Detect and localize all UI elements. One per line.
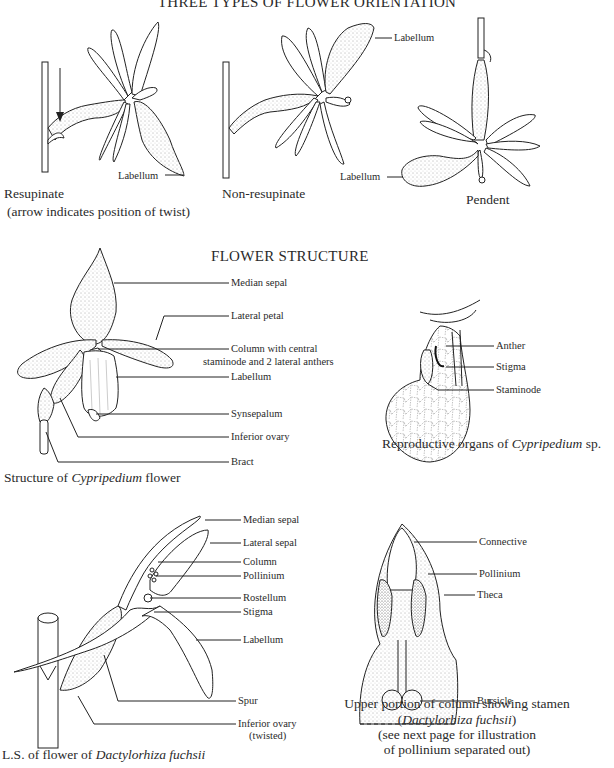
non-resupinate-caption: Non-resupinate (222, 187, 305, 201)
caption-text: Structure of (4, 470, 71, 485)
stamen-drawing (360, 524, 458, 724)
stamen-label-pollinium: Pollinium (479, 569, 520, 580)
stamen-caption-line4: of pollinium separated out) (340, 743, 574, 757)
resupinate-subcaption: (arrow indicates position of twist) (7, 205, 190, 219)
resupinate-caption: Resupinate (4, 187, 64, 201)
ls-label-inferior-ovary: Inferior ovary (238, 719, 297, 730)
label-column-line1: Column with central (231, 344, 317, 355)
cypripedium-flower-drawing (18, 248, 173, 454)
dactylorhiza-caption: L.S. of flower of Dactylorhiza fuchsii (2, 748, 205, 762)
label-labellum: Labellum (231, 372, 271, 383)
label-median-sepal: Median sepal (231, 278, 287, 289)
label-anther: Anther (496, 341, 525, 352)
cypripedium-caption: Structure of Cypripedium flower (4, 471, 181, 485)
ls-label-median-sepal: Median sepal (243, 515, 299, 526)
label-synsepalum: Synsepalum (231, 409, 282, 420)
caption-text: L.S. of flower of (2, 747, 96, 762)
ls-label-rostellum: Rostellum (243, 593, 286, 604)
pendent-labellum-label: Labellum (340, 172, 380, 183)
ls-label-labellum: Labellum (243, 635, 283, 646)
label-bract: Bract (231, 457, 254, 468)
ls-label-spur: Spur (238, 696, 258, 707)
label-column-line2: staminode and 2 lateral anthers (203, 357, 334, 368)
ls-label-column: Column (243, 557, 277, 568)
section-title-orientation: THREE TYPES OF FLOWER ORIENTATION (0, 0, 614, 10)
caption-species: Dactylorhiza fuchsii (402, 712, 512, 727)
caption-text: flower (142, 470, 181, 485)
reproductive-caption: Reproductive organs of Cypripedium sp. (382, 437, 601, 451)
resupinate-flower-drawing (42, 22, 184, 176)
non-resupinate-labellum-label: Labellum (394, 33, 434, 44)
ls-label-twisted: (twisted) (249, 731, 286, 742)
caption-text: sp. (582, 436, 601, 451)
caption-species: Dactylorhiza fuchsii (96, 747, 206, 762)
caption-genus: Cypripedium (71, 470, 142, 485)
ls-label-stigma: Stigma (243, 607, 273, 618)
stamen-caption-line3: (see next page for illustration (340, 728, 574, 742)
section-title-structure: FLOWER STRUCTURE (211, 249, 369, 264)
dactylorhiza-ls-drawing (14, 516, 213, 748)
ls-label-lateral-sepal: Lateral sepal (243, 538, 297, 549)
stamen-caption-line1: Upper portion of column showing stamen (340, 697, 574, 711)
caption-text: Reproductive organs of (382, 436, 512, 451)
label-inferior-ovary: Inferior ovary (231, 432, 290, 443)
label-lateral-petal: Lateral petal (231, 311, 284, 322)
non-resupinate-flower-drawing (223, 24, 374, 179)
stamen-label-theca: Theca (477, 590, 503, 601)
label-staminode: Staminode (496, 385, 541, 396)
ls-label-pollinium: Pollinium (243, 571, 284, 582)
resupinate-labellum-label: Labellum (118, 171, 158, 182)
pendent-caption: Pendent (466, 193, 510, 207)
stamen-caption-line2: (Dactylorhiza fuchsii) (340, 713, 574, 727)
stamen-label-connective: Connective (479, 537, 527, 548)
caption-genus: Cypripedium (512, 436, 583, 451)
label-stigma: Stigma (496, 362, 526, 373)
